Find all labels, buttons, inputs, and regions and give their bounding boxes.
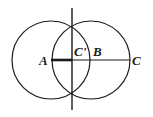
label-B: B bbox=[92, 44, 102, 59]
construction-diagram: A C' B C bbox=[0, 0, 153, 117]
label-C-prime: C' bbox=[74, 44, 87, 59]
label-C: C bbox=[132, 53, 141, 68]
label-A: A bbox=[38, 53, 48, 68]
